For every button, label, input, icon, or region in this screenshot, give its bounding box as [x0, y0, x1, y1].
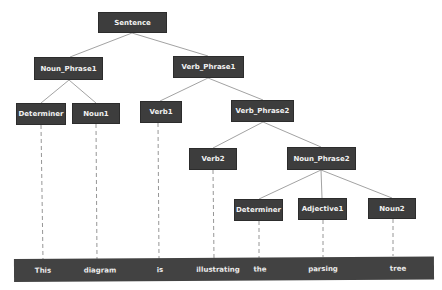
node-verb-phrase1: Verb_Phrase1 [173, 56, 244, 78]
node-label: Verb1 [149, 108, 172, 116]
node-noun-phrase1: Noun_Phrase1 [34, 57, 103, 80]
edge-sentence-np1 [70, 33, 132, 57]
node-determiner1: Determiner [16, 103, 66, 125]
node-noun-phrase2: Noun_Phrase2 [287, 147, 356, 170]
node-adjective1: Adjective1 [298, 198, 347, 220]
node-verb-phrase2: Verb_Phrase2 [231, 100, 294, 122]
node-label: Adjective1 [302, 205, 344, 213]
word-the: the [253, 265, 266, 273]
word-diagram: diagram [84, 266, 117, 274]
parse-tree-diagram: Sentence Noun_Phrase1 Verb_Phrase1 Deter… [0, 0, 442, 290]
node-label: Sentence [114, 19, 151, 27]
edge-vp1-vp2 [208, 78, 263, 100]
node-label: Determiner [19, 110, 64, 118]
word-illustrating: illustrating [196, 266, 240, 274]
edge-vp2-verb2 [213, 122, 263, 148]
node-determiner2: Determiner [234, 199, 283, 221]
edge-np2-det2 [259, 170, 321, 199]
link-det-this [41, 125, 43, 260]
sentence-words-bar: This diagram is illustrating the parsing… [14, 256, 434, 282]
word-tree: tree [390, 265, 406, 273]
node-label: Verb_Phrase2 [236, 107, 290, 115]
node-sentence: Sentence [98, 12, 167, 33]
node-label: Noun2 [379, 205, 405, 213]
link-verb2-illustrating [213, 170, 214, 258]
edge-vp2-np2 [263, 122, 321, 147]
word-this: This [35, 267, 51, 275]
node-label: Determiner [236, 206, 281, 214]
node-label: Noun_Phrase2 [293, 155, 349, 163]
edge-np2-noun2 [321, 170, 392, 198]
edge-np2-adj1 [321, 170, 322, 198]
word-parsing: parsing [308, 265, 338, 273]
node-noun2: Noun2 [368, 198, 416, 219]
edge-vp1-verb1 [160, 78, 208, 101]
word-is: is [157, 266, 164, 274]
link-verb1-is [158, 123, 159, 259]
node-verb2: Verb2 [189, 148, 237, 170]
node-noun1: Noun1 [72, 103, 120, 124]
link-noun1-diagram [96, 124, 97, 260]
node-label: Verb2 [201, 155, 224, 163]
node-verb1: Verb1 [140, 101, 182, 123]
node-label: Verb_Phrase1 [182, 63, 236, 71]
word-links [41, 123, 393, 260]
edge-np1-noun1 [69, 80, 96, 103]
node-label: Noun1 [83, 110, 109, 118]
edge-np1-det [41, 80, 69, 103]
connector-lines [0, 0, 442, 290]
edge-sentence-vp1 [132, 33, 208, 56]
node-label: Noun_Phrase1 [40, 65, 96, 73]
